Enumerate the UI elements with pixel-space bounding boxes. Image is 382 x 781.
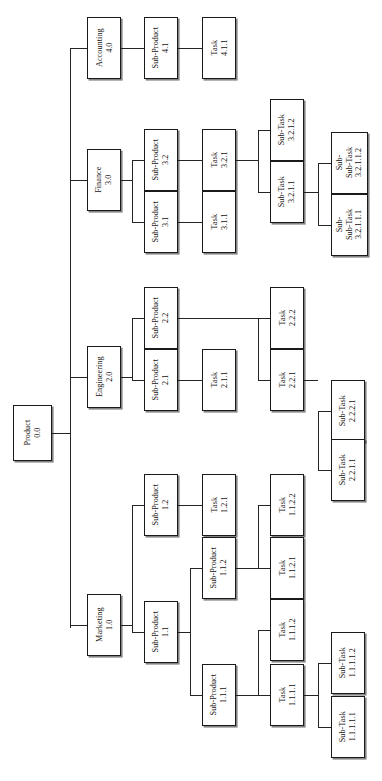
wbs-node-1.1.1.2[interactable]: Task1.1.1.2 bbox=[270, 599, 304, 661]
node-code: 3.2.1 bbox=[219, 152, 229, 169]
connector-line bbox=[318, 163, 319, 225]
wbs-node-0.0[interactable]: Product0.0 bbox=[13, 405, 52, 461]
wbs-node-2.0[interactable]: Engineering2.0 bbox=[87, 346, 121, 408]
connector-line bbox=[190, 568, 202, 569]
node-text: Sub-Task3.2.1.2 bbox=[277, 114, 296, 145]
node-label: Sub-Product bbox=[209, 674, 219, 716]
connector-line bbox=[318, 411, 319, 470]
connector-line bbox=[258, 695, 270, 696]
node-label: Sub-Task bbox=[338, 647, 348, 678]
node-text: Marketing1.0 bbox=[94, 608, 113, 643]
node-label: Task bbox=[277, 372, 287, 389]
node-label: Finance bbox=[94, 167, 104, 193]
node-label: Sub-Task bbox=[277, 176, 287, 207]
node-text: Task2.2.2 bbox=[277, 310, 296, 327]
node-text: Task2.1.1 bbox=[209, 372, 228, 389]
wbs-node-2.2[interactable]: Sub-Product2.2 bbox=[144, 287, 178, 349]
connector-line bbox=[178, 380, 202, 381]
wbs-node-4.1.1[interactable]: Task4.1.1 bbox=[202, 17, 236, 79]
node-text: Sub-Product2.1 bbox=[151, 359, 170, 401]
node-text: Task3.1.1 bbox=[209, 214, 228, 231]
node-text: Task1.1.2.2 bbox=[277, 494, 296, 517]
connector-line bbox=[178, 318, 258, 319]
wbs-node-2.2.2[interactable]: Task2.2.2 bbox=[270, 287, 304, 349]
node-label: Task bbox=[277, 684, 287, 707]
node-label: Task bbox=[209, 214, 219, 231]
node-code: 2.2.2.1 bbox=[348, 395, 358, 426]
connector-line bbox=[70, 625, 87, 626]
wbs-node-1.2[interactable]: Sub-Product1.2 bbox=[144, 474, 178, 536]
node-text: Sub-Task3.2.1.1 bbox=[277, 176, 296, 207]
node-text: Sub-Sub-Task3.2.1.1.2 bbox=[335, 147, 364, 178]
connector-line bbox=[132, 222, 144, 223]
wbs-node-1.1.2.1[interactable]: Task1.1.2.1 bbox=[270, 537, 304, 599]
wbs-node-1.1.2[interactable]: Sub-Product1.1.2 bbox=[202, 537, 236, 599]
node-code: 3.2.1.1.2 bbox=[354, 147, 364, 178]
wbs-node-1.1.1[interactable]: Sub-Product1.1.1 bbox=[202, 664, 236, 726]
node-label: Sub-Task bbox=[338, 395, 348, 426]
node-label: Sub-Product bbox=[151, 27, 161, 69]
node-code: 3.0 bbox=[104, 167, 114, 193]
wbs-node-1.1.2.2[interactable]: Task1.1.2.2 bbox=[270, 474, 304, 536]
wbs-node-4.0[interactable]: Accounting4.0 bbox=[87, 17, 121, 79]
wbs-node-2.1.1[interactable]: Task2.1.1 bbox=[202, 349, 236, 411]
wbs-node-3.1[interactable]: Sub-Product3.1 bbox=[144, 191, 178, 253]
connector-line bbox=[121, 180, 132, 181]
node-label: Task bbox=[209, 40, 219, 57]
wbs-node-3.2.1.1[interactable]: Sub-Task3.2.1.1 bbox=[270, 161, 304, 223]
wbs-node-2.2.1[interactable]: Task2.2.1 bbox=[270, 349, 304, 411]
wbs-node-1.1.1.1.1[interactable]: Sub-Task1.1.1.1.1 bbox=[331, 696, 365, 758]
node-text: Sub-Product3.1 bbox=[151, 201, 170, 243]
connector-line bbox=[258, 318, 270, 319]
connector-line bbox=[318, 411, 331, 412]
node-label: Task bbox=[209, 372, 219, 389]
node-label: Sub-Product bbox=[151, 359, 161, 401]
wbs-node-3.2.1.1.1[interactable]: Sub-Sub-Task3.2.1.1.1 bbox=[331, 194, 368, 256]
node-code: 0.0 bbox=[32, 420, 42, 446]
wbs-node-3.2.1.2[interactable]: Sub-Task3.2.1.2 bbox=[270, 99, 304, 161]
connector-line bbox=[178, 222, 202, 223]
wbs-node-1.1.1.1[interactable]: Task1.1.1.1 bbox=[270, 664, 304, 726]
wbs-node-3.2[interactable]: Sub-Product3.2 bbox=[144, 129, 178, 191]
connector-line bbox=[178, 632, 190, 633]
node-code: 3.2.1.1 bbox=[287, 176, 297, 207]
node-text: Sub-Task2.2.2.1 bbox=[338, 395, 357, 426]
wbs-node-2.2.2.1[interactable]: Sub-Task2.2.2.1 bbox=[331, 380, 365, 442]
wbs-node-3.1.1[interactable]: Task3.1.1 bbox=[202, 191, 236, 253]
connector-line bbox=[258, 380, 270, 381]
connector-line bbox=[178, 505, 202, 506]
connector-line bbox=[121, 625, 132, 626]
node-code: 3.2 bbox=[161, 139, 171, 181]
wbs-node-1.0[interactable]: Marketing1.0 bbox=[87, 594, 121, 656]
node-text: Sub-Product2.2 bbox=[151, 297, 170, 339]
node-code: 2.2 bbox=[161, 297, 171, 339]
node-label: Sub-Task bbox=[338, 711, 348, 742]
connector-line bbox=[121, 377, 132, 378]
wbs-node-1.1.1.1.2[interactable]: Sub-Task1.1.1.1.2 bbox=[331, 632, 365, 694]
wbs-node-3.2.1[interactable]: Task3.2.1 bbox=[202, 129, 236, 191]
node-label: Sub-Task bbox=[345, 147, 355, 178]
connector-line bbox=[236, 160, 258, 161]
wbs-node-2.2.1.1[interactable]: Sub-Task2.2.1.1 bbox=[331, 439, 365, 501]
node-code: 1.1.1.1.1 bbox=[348, 711, 358, 742]
connector-line bbox=[318, 663, 331, 664]
connector-line bbox=[70, 48, 87, 49]
wbs-node-1.2.1[interactable]: Task1.2.1 bbox=[202, 474, 236, 536]
wbs-node-3.2.1.1.2[interactable]: Sub-Sub-Task3.2.1.1.2 bbox=[331, 132, 368, 194]
connector-line bbox=[318, 225, 331, 226]
node-code: 2.1.1 bbox=[219, 372, 229, 389]
wbs-node-1.1[interactable]: Sub-Product1.1 bbox=[144, 601, 178, 663]
node-label: Sub-Product bbox=[151, 484, 161, 526]
node-text: Task1.2.1 bbox=[209, 497, 228, 514]
connector-line bbox=[132, 160, 144, 161]
wbs-node-3.0[interactable]: Finance3.0 bbox=[87, 149, 121, 211]
wbs-node-4.1[interactable]: Sub-Product4.1 bbox=[144, 17, 178, 79]
node-label: Sub-Product bbox=[151, 297, 161, 339]
node-text: Engineering2.0 bbox=[94, 357, 113, 398]
node-label: Task bbox=[277, 557, 287, 580]
wbs-node-2.1[interactable]: Sub-Product2.1 bbox=[144, 349, 178, 411]
connector-line bbox=[258, 630, 270, 631]
node-text: Task2.2.1 bbox=[277, 372, 296, 389]
connector-line bbox=[178, 160, 202, 161]
node-text: Product0.0 bbox=[23, 420, 42, 446]
